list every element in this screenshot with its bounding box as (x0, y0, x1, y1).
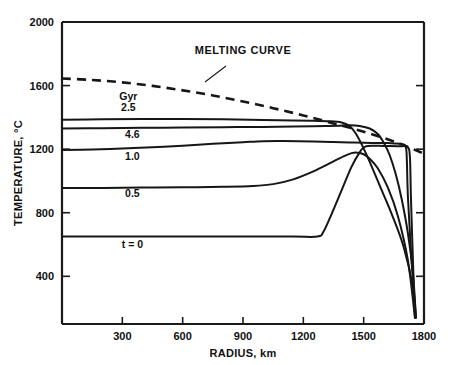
annotation-t-0: t = 0 (122, 238, 143, 250)
y-tick-label-2000: 2000 (30, 16, 54, 28)
temperature-radius-chart: 300600900120015001800400800120016002000R… (0, 0, 451, 365)
x-tick-label-1500: 1500 (351, 330, 375, 342)
plot-axes (62, 22, 424, 324)
y-tick-label-1600: 1600 (30, 80, 54, 92)
annotation-melting-curve: MELTING CURVE (195, 44, 292, 56)
x-tick-label-600: 600 (173, 330, 191, 342)
isotherm-curve-1-0 (62, 141, 416, 318)
y-tick-label-1200: 1200 (30, 143, 54, 155)
melting-curve-leader-line (205, 66, 226, 82)
annotation-4-6: 4.6 (125, 128, 140, 140)
isotherm-curve-t-0 (62, 146, 415, 318)
chart-svg: 300600900120015001800400800120016002000R… (0, 0, 451, 365)
isotherm-curve-0-5 (62, 153, 415, 318)
y-tick-label-800: 800 (36, 207, 54, 219)
x-tick-label-300: 300 (113, 330, 131, 342)
annotation-1-0: 1.0 (125, 150, 140, 162)
x-axis-title: RADIUS, km (209, 347, 276, 359)
tick-marks (62, 22, 424, 324)
annotation-2-5: 2.5 (121, 101, 136, 113)
annotation-0-5: 0.5 (125, 187, 140, 199)
x-tick-label-1800: 1800 (412, 330, 436, 342)
y-axis-title: TEMPERATURE, °C (12, 120, 24, 226)
y-tick-label-400: 400 (36, 270, 54, 282)
x-tick-label-900: 900 (234, 330, 252, 342)
data-curves (62, 78, 424, 317)
x-tick-label-1200: 1200 (291, 330, 315, 342)
